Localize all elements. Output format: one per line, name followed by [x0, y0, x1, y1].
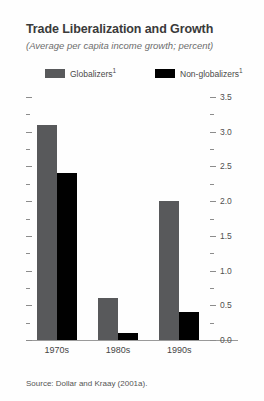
y-tick-right [210, 166, 216, 167]
legend-item-globalizers: Globalizers1 [45, 66, 116, 80]
chart-legend: Globalizers1 Non-globalizers1 [45, 66, 245, 80]
chart-title: Trade Liberalization and Growth [26, 22, 213, 36]
y-tick-right [210, 97, 216, 98]
y-tick-right [210, 323, 214, 324]
bar-non-globalizers [57, 173, 77, 340]
bar-group [98, 97, 138, 340]
category-label: 1990s [167, 345, 192, 355]
y-tick-right [210, 305, 216, 306]
legend-item-non-globalizers: Non-globalizers1 [155, 66, 243, 80]
y-tick-label: 1.0 [220, 266, 232, 276]
bar-globalizers [37, 125, 57, 340]
category-label: 1980s [106, 345, 131, 355]
y-tick-right [210, 219, 214, 220]
chart-subtitle: (Average per capita income growth; perce… [26, 40, 213, 51]
bars-container [26, 97, 210, 340]
y-tick-right [210, 184, 214, 185]
y-tick-label: 2.5 [220, 161, 232, 171]
y-tick-label: 2.0 [220, 196, 232, 206]
bar-globalizers [159, 201, 179, 340]
y-tick-right [210, 288, 214, 289]
y-tick-right [210, 253, 214, 254]
bar-globalizers [98, 298, 118, 340]
plot-area: 0.00.51.01.52.02.53.03.5 1970s1980s1990s [26, 97, 238, 341]
y-tick-right [210, 271, 216, 272]
chart-figure: Trade Liberalization and Growth (Average… [0, 0, 264, 401]
y-tick-label: 1.5 [220, 231, 232, 241]
legend-swatch-globalizers [45, 69, 65, 78]
y-tick-right [210, 201, 216, 202]
legend-swatch-non-globalizers [155, 69, 175, 78]
source-note: Source: Dollar and Kraay (2001a). [26, 379, 147, 388]
y-tick-label: 3.5 [220, 92, 232, 102]
x-axis-baseline [26, 340, 238, 341]
bar-group [37, 97, 77, 340]
bar-non-globalizers [179, 312, 199, 340]
y-tick-right [210, 236, 216, 237]
y-tick-right [210, 340, 216, 341]
bar-group [159, 97, 199, 340]
legend-label-globalizers: Globalizers1 [70, 67, 116, 79]
y-tick-right [210, 114, 214, 115]
legend-label-non-globalizers: Non-globalizers1 [180, 67, 243, 79]
y-tick-label: 0.5 [220, 300, 232, 310]
y-tick-right [210, 149, 214, 150]
y-tick-label: 3.0 [220, 127, 232, 137]
y-tick-label: 0.0 [220, 335, 232, 345]
y-tick-left [26, 340, 32, 341]
category-label: 1970s [44, 345, 69, 355]
y-tick-right [210, 132, 216, 133]
bar-non-globalizers [118, 333, 138, 340]
